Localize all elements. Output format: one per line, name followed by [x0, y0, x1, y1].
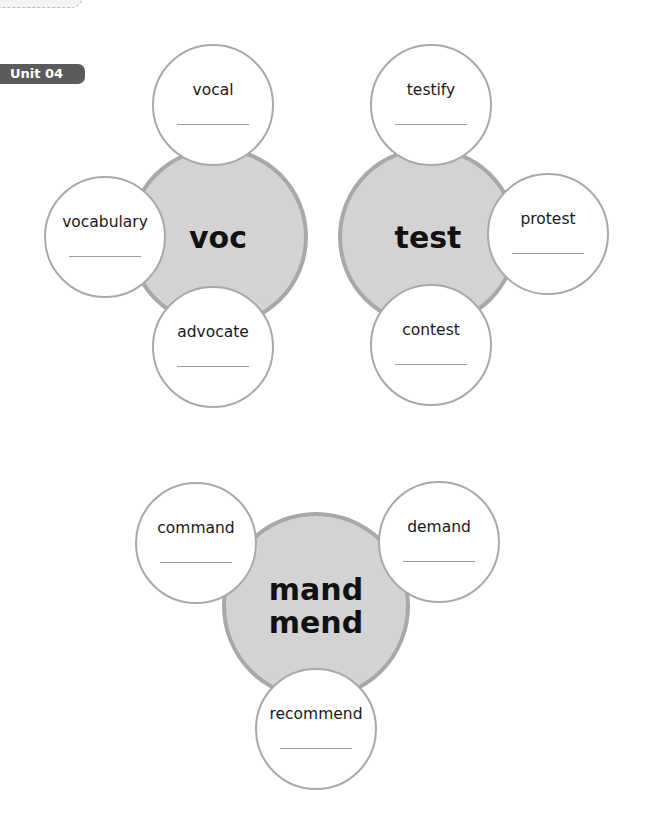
answer-blank[interactable] [69, 256, 141, 257]
word-circle: vocal [152, 44, 274, 166]
word-label: advocate [154, 323, 272, 341]
word-label: vocabulary [46, 213, 164, 231]
word-label: contest [372, 321, 490, 339]
word-label: vocal [154, 81, 272, 99]
root-label: mand mend [269, 573, 363, 639]
word-circle: testify [370, 44, 492, 166]
answer-blank[interactable] [280, 748, 352, 749]
word-label: command [137, 519, 255, 537]
answer-blank[interactable] [512, 253, 584, 254]
word-circle: protest [487, 173, 609, 295]
answer-blank[interactable] [403, 561, 475, 562]
word-label: protest [489, 210, 607, 228]
word-circle: vocabulary [44, 176, 166, 298]
word-circle: recommend [255, 668, 377, 790]
page-corner-tab [0, 0, 82, 8]
word-circle: contest [370, 284, 492, 406]
root-label: test [395, 221, 462, 254]
word-label: recommend [257, 705, 375, 723]
answer-blank[interactable] [395, 124, 467, 125]
root-label: voc [189, 221, 247, 254]
answer-blank[interactable] [395, 364, 467, 365]
unit-badge: Unit 04 [0, 64, 85, 84]
word-circle: demand [378, 481, 500, 603]
word-label: testify [372, 81, 490, 99]
word-label: demand [380, 518, 498, 536]
answer-blank[interactable] [177, 124, 249, 125]
word-circle: advocate [152, 286, 274, 408]
answer-blank[interactable] [177, 366, 249, 367]
answer-blank[interactable] [160, 562, 232, 563]
word-circle: command [135, 482, 257, 604]
